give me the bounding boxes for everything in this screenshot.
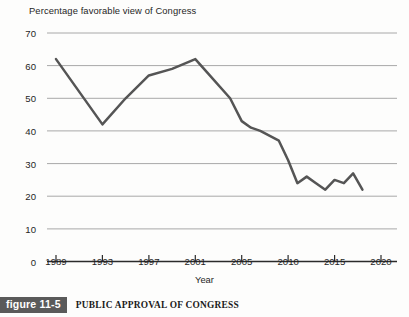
gridlines bbox=[47, 33, 397, 229]
chart-svg bbox=[0, 0, 409, 272]
y-axis-tick-label: 60 bbox=[10, 60, 36, 71]
y-axis-tick-label: 30 bbox=[10, 158, 36, 169]
x-axis-tick-label: 2020 bbox=[370, 256, 391, 267]
y-axis-tick-label: 70 bbox=[10, 28, 36, 39]
figure-number-badge: figure 11-5 bbox=[0, 297, 67, 313]
data-series-line bbox=[56, 59, 362, 190]
y-axis-tick-label: 40 bbox=[10, 125, 36, 136]
y-axis-tick-label: 20 bbox=[10, 191, 36, 202]
figure-caption: figure 11-5 PUBLIC APPROVAL OF CONGRESS bbox=[0, 296, 409, 313]
x-axis-tick-label: 2010 bbox=[277, 256, 298, 267]
x-axis-tick-label: 2001 bbox=[185, 256, 206, 267]
x-axis-tick-label: 1993 bbox=[92, 256, 113, 267]
x-axis-tick-label: 2005 bbox=[231, 256, 252, 267]
x-axis-tick-label: 1997 bbox=[138, 256, 159, 267]
x-axis-tick-label: 2015 bbox=[324, 256, 345, 267]
figure-caption-text: PUBLIC APPROVAL OF CONGRESS bbox=[76, 300, 239, 310]
y-axis-tick-label: 50 bbox=[10, 93, 36, 104]
x-axis-title: Year bbox=[0, 274, 409, 285]
y-axis-tick-label: 0 bbox=[10, 256, 36, 267]
figure-public-approval-of-congress: Percentage favorable view of Congress 01… bbox=[0, 0, 409, 317]
x-axis-tick-label: 1989 bbox=[45, 256, 66, 267]
y-axis-tick-label: 10 bbox=[10, 223, 36, 234]
plot-area: 010203040506070 198919931997200120052010… bbox=[0, 0, 409, 272]
